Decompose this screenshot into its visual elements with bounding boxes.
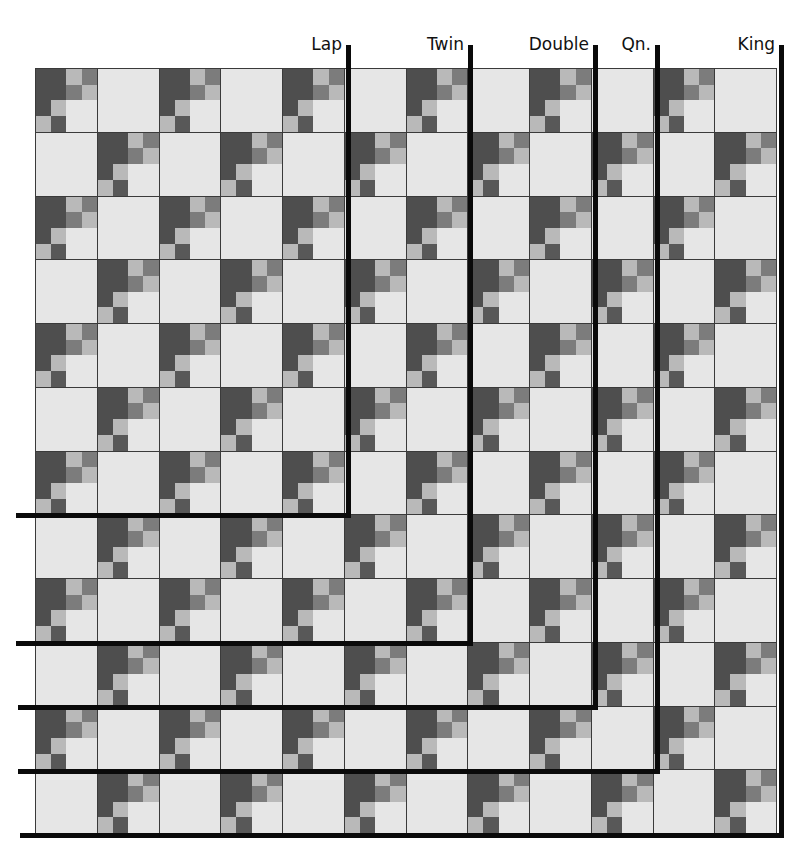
block-patch — [267, 690, 282, 706]
block-patch — [390, 547, 405, 563]
block-patch — [576, 754, 591, 770]
plain-square — [98, 197, 159, 260]
plain-square — [592, 324, 653, 387]
block-patch — [715, 388, 730, 404]
pieced-block — [592, 770, 653, 833]
block-patch — [221, 388, 236, 404]
block-patch — [530, 483, 545, 499]
block-patch — [437, 483, 452, 499]
block-patch — [313, 626, 328, 642]
block-patch — [483, 643, 498, 659]
block-patch — [390, 531, 405, 547]
block-patch — [576, 85, 591, 101]
block-patch — [730, 817, 745, 833]
block-patch — [407, 610, 422, 626]
block-patch — [452, 452, 467, 468]
block-patch — [175, 610, 190, 626]
block-patch — [746, 643, 761, 659]
block-patch — [205, 197, 220, 213]
block-patch — [329, 69, 344, 85]
block-patch — [175, 116, 190, 132]
block-patch — [252, 674, 267, 690]
block-patch — [545, 754, 560, 770]
block-patch — [684, 212, 699, 228]
block-patch — [98, 786, 113, 802]
block-patch — [283, 324, 298, 340]
block-patch — [190, 355, 205, 371]
block-patch — [530, 244, 545, 260]
block-patch — [746, 403, 761, 419]
block-patch — [637, 292, 652, 308]
block-patch — [622, 276, 637, 292]
block-patch — [128, 419, 143, 435]
block-patch — [221, 817, 236, 833]
block-patch — [66, 116, 81, 132]
pieced-block — [592, 133, 653, 196]
pieced-block — [160, 69, 221, 132]
block-patch — [622, 547, 637, 563]
block-patch — [576, 244, 591, 260]
block-patch — [576, 738, 591, 754]
block-patch — [375, 276, 390, 292]
block-patch — [66, 212, 81, 228]
block-patch — [252, 547, 267, 563]
block-patch — [175, 212, 190, 228]
block-patch — [36, 610, 51, 626]
block-patch — [98, 547, 113, 563]
block-patch — [637, 148, 652, 164]
block-patch — [252, 419, 267, 435]
size-queen-vertical-line — [655, 45, 660, 774]
block-patch — [637, 388, 652, 404]
block-patch — [514, 164, 529, 180]
block-patch — [313, 579, 328, 595]
block-patch — [560, 355, 575, 371]
block-patch — [221, 292, 236, 308]
block-patch — [236, 292, 251, 308]
block-patch — [82, 610, 97, 626]
block-patch — [699, 499, 714, 515]
block-patch — [175, 483, 190, 499]
block-patch — [329, 467, 344, 483]
block-patch — [545, 738, 560, 754]
block-patch — [761, 658, 776, 674]
block-patch — [98, 531, 113, 547]
plain-square — [283, 643, 344, 706]
block-patch — [607, 419, 622, 435]
block-patch — [407, 85, 422, 101]
block-patch — [607, 658, 622, 674]
block-patch — [746, 547, 761, 563]
block-patch — [437, 371, 452, 387]
block-patch — [607, 786, 622, 802]
block-patch — [684, 626, 699, 642]
block-patch — [499, 148, 514, 164]
block-patch — [607, 562, 622, 578]
block-patch — [98, 148, 113, 164]
block-patch — [175, 452, 190, 468]
block-patch — [560, 324, 575, 340]
block-patch — [175, 69, 190, 85]
block-patch — [730, 786, 745, 802]
block-patch — [360, 547, 375, 563]
block-patch — [329, 452, 344, 468]
block-patch — [560, 69, 575, 85]
plain-square — [221, 452, 282, 515]
block-patch — [190, 228, 205, 244]
block-patch — [66, 244, 81, 260]
block-patch — [560, 212, 575, 228]
pieced-block — [468, 515, 529, 578]
block-patch — [236, 802, 251, 818]
block-patch — [715, 802, 730, 818]
block-patch — [329, 483, 344, 499]
block-patch — [560, 579, 575, 595]
block-patch — [160, 244, 175, 260]
block-patch — [313, 85, 328, 101]
block-patch — [51, 738, 66, 754]
block-patch — [669, 626, 684, 642]
block-patch — [190, 244, 205, 260]
block-patch — [483, 388, 498, 404]
block-patch — [160, 371, 175, 387]
block-patch — [160, 499, 175, 515]
block-patch — [360, 435, 375, 451]
plain-square — [36, 515, 97, 578]
block-patch — [51, 452, 66, 468]
